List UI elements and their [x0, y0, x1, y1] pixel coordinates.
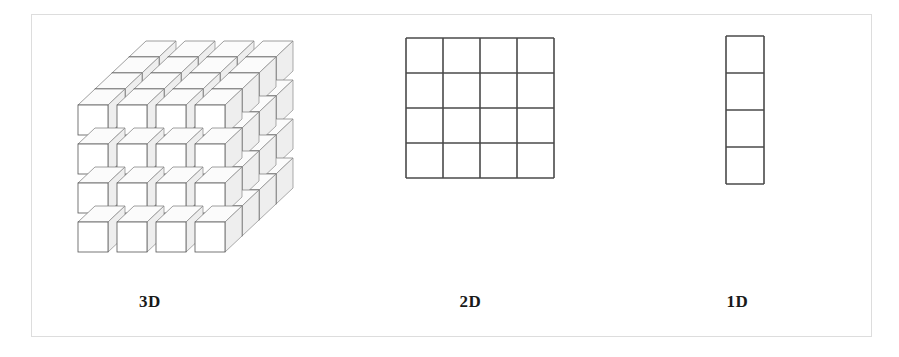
panel-1d: 1D — [660, 0, 860, 357]
caption-1d: 1D — [660, 292, 790, 312]
column-cell — [726, 110, 764, 147]
column-cell — [726, 36, 764, 73]
cube-front-face — [156, 222, 186, 252]
grid-cell — [480, 108, 517, 143]
caption-2d: 2D — [370, 292, 563, 312]
cube-front-face — [78, 222, 108, 252]
grid-cell — [517, 73, 554, 108]
grid-cell — [443, 38, 480, 73]
grid-cell — [480, 143, 517, 178]
grid-cell — [406, 108, 443, 143]
grid-cell — [480, 38, 517, 73]
cube-array-3d — [70, 30, 330, 290]
column-1d — [720, 31, 790, 196]
grid-cell — [406, 73, 443, 108]
cube-front-face — [195, 222, 225, 252]
figure-root: 3D 2D 1D — [0, 0, 899, 357]
grid-cell — [443, 143, 480, 178]
cube-front-face — [117, 222, 147, 252]
grid-cell — [443, 73, 480, 108]
grid-cell — [406, 143, 443, 178]
grid-cell — [443, 108, 480, 143]
panel-3d: 3D — [40, 0, 340, 357]
grid-cell — [480, 73, 517, 108]
grid-cell — [406, 38, 443, 73]
grid-cell — [517, 108, 554, 143]
column-cell — [726, 73, 764, 110]
grid-2d — [400, 32, 575, 197]
column-cell — [726, 147, 764, 184]
grid-cell — [517, 38, 554, 73]
panel-2d: 2D — [370, 0, 610, 357]
grid-cell — [517, 143, 554, 178]
caption-3d: 3D — [40, 292, 260, 312]
